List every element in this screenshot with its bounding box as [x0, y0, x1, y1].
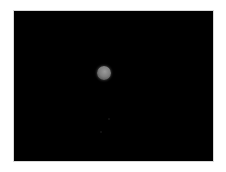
faint-star — [100, 131, 102, 133]
faint-star — [108, 118, 110, 120]
planet-disc — [97, 66, 111, 80]
photo-frame — [14, 11, 213, 161]
